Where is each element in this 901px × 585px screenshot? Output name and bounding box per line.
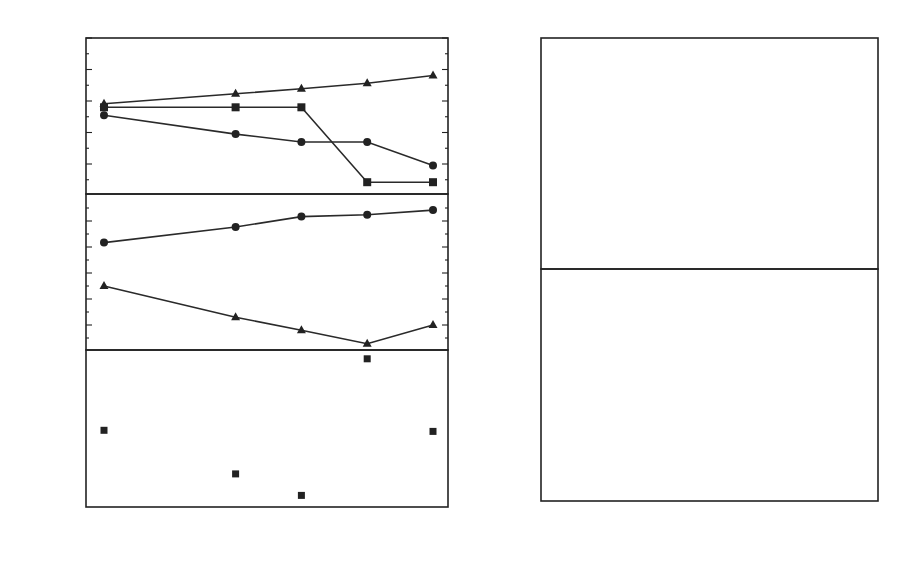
figure-canvas (0, 0, 901, 585)
top-right-frame (541, 38, 878, 269)
bottom-right-frame (541, 269, 878, 501)
series-bsym (100, 206, 437, 247)
series-bn1 (100, 103, 437, 186)
right-plot-group (0, 0, 878, 501)
top-left-frame (86, 38, 448, 194)
left-plot-group (0, 0, 448, 507)
middle-left-frame (86, 194, 448, 350)
series-bqf (100, 71, 438, 107)
top-left-y-ticks (86, 38, 448, 180)
series-bn2 (100, 111, 437, 169)
series-basym (100, 281, 438, 347)
bottom-left-frame (86, 350, 448, 507)
series-sigma-hd (101, 355, 437, 499)
middle-left-y-ticks (86, 208, 448, 338)
